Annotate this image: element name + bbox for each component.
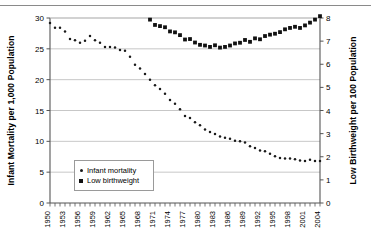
data-point-low-birthweight: [303, 24, 307, 28]
data-point-low-birthweight: [263, 34, 267, 38]
data-point-infant-mortality: [254, 147, 257, 150]
data-point-infant-mortality: [169, 99, 172, 102]
chart-figure: 0510152025300123456781950195319561959196…: [0, 0, 371, 245]
x-axis-year-label: 1986: [223, 211, 232, 228]
data-point-infant-mortality: [184, 115, 187, 118]
data-point-infant-mortality: [249, 145, 252, 148]
tick-label-right: 6: [326, 60, 331, 69]
data-point-low-birthweight: [218, 46, 222, 50]
data-point-infant-mortality: [89, 35, 92, 38]
data-point-infant-mortality: [54, 27, 57, 30]
data-point-infant-mortality: [154, 84, 157, 87]
tick-label-right: 4: [326, 107, 331, 116]
data-point-low-birthweight: [163, 25, 167, 29]
data-point-low-birthweight: [243, 38, 247, 42]
data-point-infant-mortality: [129, 56, 132, 59]
data-point-low-birthweight: [228, 44, 232, 48]
data-point-low-birthweight: [153, 23, 157, 27]
x-axis-year-label: 1977: [178, 211, 187, 228]
x-axis-year-label: 1974: [163, 211, 172, 228]
x-axis-year-label: 1956: [73, 211, 82, 228]
data-point-infant-mortality: [234, 139, 237, 142]
data-point-infant-mortality: [319, 160, 322, 163]
data-point-low-birthweight: [203, 44, 207, 48]
data-point-infant-mortality: [284, 157, 287, 160]
x-axis-year-label: 1965: [118, 211, 127, 228]
tick-label-left: 10: [35, 137, 44, 146]
data-point-infant-mortality: [149, 78, 152, 81]
data-point-infant-mortality: [279, 157, 282, 160]
tick-label-left: 30: [35, 14, 44, 23]
legend-label: Low birthweight: [87, 177, 139, 185]
x-axis-year-label: 1953: [58, 211, 67, 228]
data-point-low-birthweight: [193, 41, 197, 45]
data-point-infant-mortality: [164, 93, 167, 96]
data-point-low-birthweight: [173, 30, 177, 34]
tick-label-left: 20: [35, 76, 44, 85]
data-point-infant-mortality: [199, 124, 202, 127]
data-point-infant-mortality: [244, 141, 247, 144]
data-point-infant-mortality: [174, 102, 177, 105]
data-point-low-birthweight: [268, 33, 272, 37]
data-point-infant-mortality: [274, 155, 277, 158]
legend-item-infant-mortality: Infant mortality: [79, 167, 149, 175]
data-point-infant-mortality: [219, 135, 222, 138]
data-point-infant-mortality: [144, 73, 147, 76]
tick-label-right: 2: [326, 153, 331, 162]
data-point-low-birthweight: [248, 40, 252, 44]
tick-label-right: 7: [326, 37, 331, 46]
data-point-low-birthweight: [198, 43, 202, 47]
data-point-low-birthweight: [308, 21, 312, 25]
data-point-infant-mortality: [259, 149, 262, 152]
data-point-infant-mortality: [114, 46, 117, 49]
data-point-infant-mortality: [124, 49, 127, 52]
tick-label-right: 0: [326, 199, 331, 208]
data-point-low-birthweight: [253, 36, 257, 40]
data-point-infant-mortality: [189, 117, 192, 120]
tick-label-left: 5: [40, 168, 45, 177]
data-point-low-birthweight: [258, 37, 262, 41]
x-axis-year-label: 1983: [208, 211, 217, 228]
data-point-infant-mortality: [79, 41, 82, 44]
data-point-low-birthweight: [148, 18, 152, 22]
data-point-infant-mortality: [119, 49, 122, 52]
x-axis-year-label: 1950: [43, 211, 52, 228]
data-point-infant-mortality: [304, 160, 307, 163]
data-point-infant-mortality: [214, 133, 217, 136]
dot-marker-icon: [80, 169, 83, 172]
data-point-low-birthweight: [168, 30, 172, 34]
tick-label-right: 8: [326, 14, 331, 23]
data-point-low-birthweight: [318, 14, 322, 18]
data-point-infant-mortality: [209, 131, 212, 134]
data-point-low-birthweight: [283, 27, 287, 31]
data-point-low-birthweight: [178, 33, 182, 37]
legend-item-low-birthweight: Low birthweight: [79, 177, 149, 185]
data-point-low-birthweight: [293, 25, 297, 29]
tick-label-right: 5: [326, 83, 331, 92]
data-point-low-birthweight: [278, 30, 282, 34]
data-point-infant-mortality: [264, 150, 267, 153]
tick-label-left: 25: [35, 45, 44, 54]
data-point-infant-mortality: [224, 136, 227, 139]
data-point-infant-mortality: [104, 46, 107, 49]
data-point-infant-mortality: [94, 39, 97, 42]
data-point-low-birthweight: [158, 24, 162, 28]
x-axis-year-label: 1980: [193, 211, 202, 228]
data-point-low-birthweight: [313, 18, 317, 22]
tick-label-right: 1: [326, 176, 331, 185]
x-axis-year-label: 1995: [268, 211, 277, 228]
right-axis-title: Low Birthweight per 100 Population: [348, 37, 358, 185]
data-point-infant-mortality: [134, 64, 137, 67]
data-point-infant-mortality: [204, 128, 207, 131]
data-point-low-birthweight: [223, 45, 227, 49]
chart-legend: Infant mortality Low birthweight: [74, 160, 154, 191]
data-point-infant-mortality: [109, 46, 112, 49]
data-point-infant-mortality: [309, 159, 312, 162]
x-axis-year-label: 2004: [313, 211, 322, 228]
tick-label-left: 0: [40, 199, 45, 208]
square-marker-icon: [79, 179, 83, 183]
data-point-infant-mortality: [74, 39, 77, 42]
data-point-low-birthweight: [273, 32, 277, 36]
x-axis-year-label: 1998: [283, 211, 292, 228]
data-point-infant-mortality: [289, 157, 292, 160]
